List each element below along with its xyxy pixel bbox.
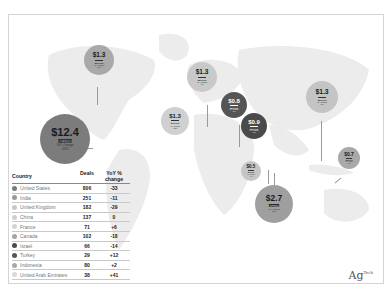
yoy-value: +2 xyxy=(98,262,130,268)
logo-text: Ag xyxy=(348,269,363,282)
brand-logo: AgTech xyxy=(348,269,373,282)
leader-line xyxy=(321,121,322,161)
leader-line xyxy=(239,125,240,147)
bubble-china: $1.3 BILLION YoY change -8% xyxy=(306,81,338,113)
bubble-canada: $1.3 BILLION YoY change -16% xyxy=(84,45,114,75)
bubble-value: $1.3 xyxy=(196,69,209,76)
country-name: United Arab Emirates xyxy=(20,272,67,278)
table-row: Turkey 29 +12 xyxy=(12,251,130,261)
country-name: India xyxy=(20,195,31,201)
bubble-value: $0.9 xyxy=(248,119,260,125)
legend-dot xyxy=(12,186,17,191)
deals-value: 806 xyxy=(76,185,98,191)
bubble-yoy-value: -16% xyxy=(97,66,102,68)
header-yoy: YoY % change xyxy=(98,170,130,182)
bubble-yoy-value: -2% xyxy=(232,111,235,113)
deals-value: 137 xyxy=(76,214,98,220)
yoy-value: -33 xyxy=(98,185,130,191)
bubble-value: $0.8 xyxy=(228,98,240,104)
country-name: France xyxy=(20,224,36,230)
bubble-yoy-value: -43% xyxy=(61,148,68,151)
table-row: Israel 66 -14 xyxy=(12,242,130,252)
header-deals: Deals xyxy=(76,170,98,182)
bubble-yoy-value: -8% xyxy=(320,103,324,105)
bubble-united-kingdom: $1.3 BILLION YoY change -9% xyxy=(187,62,217,92)
bubble-india: $2.7 BILLION YoY change -12% xyxy=(255,185,293,223)
legend-dot xyxy=(12,253,17,258)
yoy-value: -11 xyxy=(98,195,130,201)
country-name: United States xyxy=(20,185,50,191)
table-row: France 71 +6 xyxy=(12,222,130,232)
yoy-value: 0 xyxy=(98,214,130,220)
table-row: United Kingdom 182 -29 xyxy=(12,203,130,213)
bubble-yoy-value: +3% xyxy=(347,163,350,165)
yoy-value: +41 xyxy=(98,272,130,278)
deals-table: Country Deals YoY % change United States… xyxy=(12,170,130,280)
bubble-yoy-value: +9% xyxy=(252,132,256,134)
bubble-yoy-value: -9% xyxy=(200,83,204,85)
yoy-value: -14 xyxy=(98,243,130,249)
table-row: Indonesia 80 +2 xyxy=(12,261,130,271)
country-name: Turkey xyxy=(20,252,35,258)
deals-value: 71 xyxy=(76,224,98,230)
yoy-value: +6 xyxy=(98,224,130,230)
bubble-value: $0.7 xyxy=(344,152,354,157)
legend-dot xyxy=(12,272,17,277)
deals-value: 38 xyxy=(76,272,98,278)
bubble-value: $12.4 xyxy=(51,127,79,138)
bubble-indonesia: $0.7 BILLION YoY change +3% xyxy=(338,147,360,169)
bubble-value: $2.7 xyxy=(266,194,283,203)
table-row: Canada 102 -18 xyxy=(12,232,130,242)
leader-line xyxy=(207,105,208,127)
deals-value: 182 xyxy=(76,204,98,210)
country-name: United Kingdom xyxy=(20,204,56,210)
deals-value: 102 xyxy=(76,233,98,239)
legend-dot xyxy=(12,224,17,229)
legend-dot xyxy=(12,234,17,239)
legend-dot xyxy=(12,215,17,220)
bubble-value: $1.3 xyxy=(93,52,106,59)
table-row: China 137 0 xyxy=(12,213,130,223)
bubble-uae: $0.5 BILLION YoY change +4% xyxy=(241,161,261,181)
country-name: Indonesia xyxy=(20,262,42,268)
bubble-turkey: $0.8 BILLION YoY change -2% xyxy=(221,92,247,118)
yoy-value: -29 xyxy=(98,204,130,210)
bubble-yoy-value: -18% xyxy=(173,127,177,129)
legend-dot xyxy=(12,243,17,248)
deals-value: 29 xyxy=(76,252,98,258)
legend-dot xyxy=(12,205,17,210)
legend-dot xyxy=(12,263,17,268)
table-row: India 251 -11 xyxy=(12,194,130,204)
deals-value: 80 xyxy=(76,262,98,268)
country-name: Canada xyxy=(20,233,38,239)
yoy-value: +12 xyxy=(98,252,130,258)
table-row: United States 806 -33 xyxy=(12,184,130,194)
bubble-israel: $0.9 BILLION YoY change +9% xyxy=(241,113,267,139)
bubble-value: $0.5 xyxy=(247,165,256,170)
deals-value: 66 xyxy=(76,243,98,249)
country-name: Israel xyxy=(20,243,32,249)
bubble-value: $1.3 xyxy=(315,89,328,96)
deals-value: 251 xyxy=(76,195,98,201)
leader-line xyxy=(268,170,269,184)
bubble-france: $1.3 BILLION YoY change -18% xyxy=(161,107,189,135)
table-row: United Arab Emirates 38 +41 xyxy=(12,270,130,280)
yoy-value: -18 xyxy=(98,233,130,239)
bubble-north-america: $12.4 BILLION YoY change -43% xyxy=(40,114,90,164)
bubble-yoy-value: +4% xyxy=(249,176,252,178)
header-country: Country xyxy=(12,170,76,182)
country-name: China xyxy=(20,214,33,220)
legend-dot xyxy=(12,195,17,200)
table-header: Country Deals YoY % change xyxy=(12,170,130,184)
bubble-yoy-value: -12% xyxy=(271,211,277,214)
bubble-value: $1.3 xyxy=(169,113,181,119)
logo-sup: Tech xyxy=(363,270,373,275)
leader-line xyxy=(97,87,98,105)
